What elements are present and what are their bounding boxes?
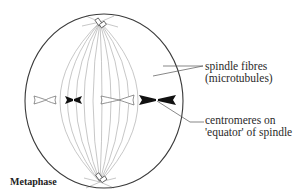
label-spindle-fibres-line1: spindle fibres <box>205 60 273 72</box>
chromosome-dark-1 <box>65 96 82 104</box>
chromosome-dark-2 <box>139 95 176 105</box>
chromosome-light-2 <box>101 95 134 105</box>
label-spindle-fibres-line2: (microtubules) <box>205 72 273 84</box>
chromosome-light-1 <box>34 96 56 104</box>
diagram-caption: Metaphase <box>10 176 57 187</box>
label-spindle-fibres: spindle fibres (microtubules) <box>205 60 273 84</box>
label-centromeres: centromeres on 'equator' of spindle <box>205 114 292 138</box>
metaphase-diagram <box>0 0 296 194</box>
leader-lines <box>153 66 204 122</box>
label-centromeres-line2: 'equator' of spindle <box>205 126 292 138</box>
label-centromeres-line1: centromeres on <box>205 114 292 126</box>
